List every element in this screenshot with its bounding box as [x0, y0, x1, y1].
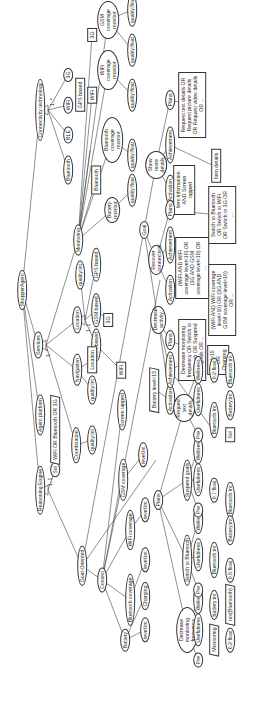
plan-suspend-goals: Suspend goals [182, 459, 192, 500]
wifi-monitor-quality: quality:float [127, 78, 137, 111]
goal-oriented-node: Goal-Oriented [77, 546, 87, 586]
navigation-location-req: Location [87, 347, 97, 374]
da-achievement: Achievement [165, 352, 175, 389]
stb-pre: Pre [193, 582, 203, 597]
gps-monitor-quality: quality:float [127, 0, 137, 27]
wifi-coverage-monitor-node: WiFi coverage monitor [97, 50, 119, 90]
smd-plans-list: Request text details OR Request picture … [178, 72, 206, 138]
wifi-requirement: WiFi [116, 361, 126, 378]
plans-node: Plans [153, 490, 163, 510]
wifi-coverage-level: level:int [140, 498, 150, 523]
feature-model-diagram: ShopperAgent Services 1..* Reasoning Eng… [0, 0, 256, 726]
sg-usefulness: Usefulness [193, 464, 203, 497]
wifi-coverage-node: WiFi coverage [125, 510, 135, 550]
connectivity-technology-node: Connectivity technology [35, 79, 45, 141]
gsm-based-node: GSM based [91, 293, 101, 327]
rc-activation-condition: (WiFi AND WiFi coverage level<10) OR (3G… [175, 237, 209, 299]
sg-usefulness-bluetooth: Bluetooth:int [225, 482, 235, 518]
monitoring-gps-req: GPS based [75, 78, 85, 112]
sg-pre: Pre [193, 502, 203, 517]
navigation-quality: quality:int [87, 376, 97, 405]
da-activation-condition: Battery level<15 [149, 367, 159, 413]
sg-wellness-value: Battery:int [225, 515, 235, 545]
bluetooth-coverage-monitor-node: Bluetooth coverage monitor [101, 117, 123, 163]
shopper-agent-node: ShopperAgent [17, 270, 27, 310]
charging-node: Charging [140, 582, 150, 610]
rc-plans-list: Switch to Bluetooth OR Switch to WiFi OR… [208, 186, 236, 244]
monitoring-3g-req: 3G [87, 28, 97, 42]
stb-usefulness-value: 0.5:float [225, 557, 235, 582]
gps-based-node: GPS based [91, 248, 101, 282]
navigation-node: Navigation [72, 354, 82, 386]
conn-bluetooth-node: Bluetooth [63, 156, 73, 185]
dmf-pre: Pre [193, 652, 203, 667]
dmf-wellness-value: battery:int [209, 590, 219, 620]
rtd-pre-sol: Sol [225, 428, 235, 443]
decrease-activity-node: Decrease activity [150, 306, 166, 334]
recover-connectivity-node: Recover connectivity [148, 245, 164, 275]
services-cardinality: 1..* [45, 349, 51, 357]
rtd-wellness-value: 0.2:float [209, 357, 219, 382]
3g-requirement: 3G [103, 313, 113, 327]
rc-plans: Plans [165, 200, 175, 220]
rc-activation: Activation [165, 275, 175, 305]
stb-usefulness-bluetooth: Bluetooth:int [209, 542, 219, 578]
stb-pre-condition: not(Bluetooth) [225, 584, 235, 626]
battery-monitor-node: Battery monitor [104, 197, 120, 223]
location-quality: quality:int [75, 261, 85, 290]
location-node: Location [72, 307, 82, 334]
plan-request-text-details: Request text details [173, 394, 195, 422]
coordination-quality: quality:int [87, 426, 97, 455]
gsm-monitor-quality: quality:float [127, 33, 137, 66]
dmf-usefulness: Usefulness [193, 614, 203, 647]
sol-node: Sol [50, 463, 60, 478]
plan-switch-to-bluetooth: Switch to Bluetooth [182, 534, 192, 585]
conn-wifi-node: WiFi [63, 96, 73, 113]
gsm-coverage-node: GSM coverage [118, 459, 128, 501]
battery-level: level:int [140, 618, 150, 643]
smd-plans: Plans [165, 90, 175, 110]
smd-achievement: Achievement [165, 127, 175, 164]
context-node: Context [97, 568, 107, 593]
rtd-wellness: Wellness [193, 356, 203, 384]
rc-achievement-condition: (WiFi AND WiFi coverage level>10) OR (3G… [208, 264, 236, 336]
conn-ble-node: BLE [63, 127, 73, 144]
rtd-pre: Pre [193, 427, 203, 442]
goal-node: Goal [139, 221, 149, 239]
smd-activation-condition: Item information AND Screen tapped [173, 165, 195, 215]
bluetooth-coverage-node: Bluetooth coverage [125, 574, 135, 626]
location-cardinality: 1..1 [85, 324, 91, 333]
agent-platform-node: Agent platform [35, 395, 45, 436]
monitoring-wifi-req: WiFi [87, 86, 97, 103]
dmf-usefulness-value: 0.2:float [225, 627, 235, 652]
dmf-pre-condition: Monitoring [209, 623, 219, 656]
gsm-coverage-level: level:int [138, 443, 148, 468]
conn-3g-node: 3G [63, 68, 73, 82]
bt-monitor-quality: quality:float [127, 138, 137, 171]
monitoring-node: Monitoring [73, 224, 83, 255]
stb-usefulness: Usefulness [193, 539, 203, 572]
rc-achievement: Achievement [165, 227, 175, 264]
show-more-details-node: Show more details [145, 151, 167, 179]
gsm-coverage-monitor-node: GSM coverage monitor [97, 1, 119, 39]
rtd-wellness-bluetooth: Bluetooth:int [225, 352, 235, 388]
battery-monitor-quality: quality:float [127, 173, 137, 206]
screen-tapped-node: Screen tapped [117, 390, 127, 431]
reasoning-engine-node: Reasoning Engine [35, 465, 45, 514]
rtd-usefulness: Usefulness [193, 384, 203, 417]
da-plans: Plans [165, 330, 175, 350]
sol-constraint-box: WiFi OR Bluetooth OR 3G [50, 395, 60, 465]
sg-usefulness-value: 0.7:float [209, 477, 219, 502]
coordination-node: Coordination [71, 427, 81, 463]
rtd-usefulness-battery: Battery:int [225, 390, 235, 420]
battery-node: Battery [120, 628, 130, 651]
connectivity-cardinality: 1..* [49, 98, 55, 106]
monitoring-bluetooth-req: Bluetooth [91, 166, 101, 195]
services-node: Services [33, 332, 43, 359]
rtd-usefulness-bluetooth: Bluetooth:int [209, 402, 219, 438]
smd-achievement-condition: Item details [211, 149, 221, 183]
reasoning-cardinality: 1..1 [47, 478, 53, 487]
bt-coverage-level: level:int [140, 548, 150, 573]
